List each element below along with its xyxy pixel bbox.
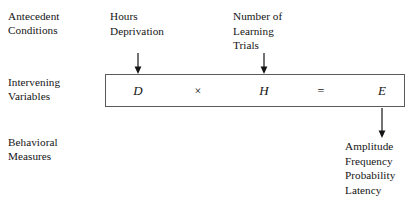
equation-operator-equals: =	[318, 83, 325, 98]
row-label-intervening-variables: Intervening Variables	[8, 75, 60, 103]
row-label-behavioral-measures: Behavioral Measures	[8, 135, 58, 163]
behavioral-measure-item: Latency	[345, 183, 395, 198]
arrow-to-h-icon	[257, 53, 271, 75]
behavioral-measures-list: Amplitude Frequency Probability Latency	[345, 139, 395, 197]
equation-term-d: D	[133, 83, 142, 99]
equation-term-h: H	[259, 83, 268, 99]
input-label-hours-deprivation: Hours Deprivation	[110, 9, 164, 38]
behavioral-measure-item: Probability	[345, 168, 395, 183]
equation-box: D × H = E	[105, 74, 405, 107]
arrow-from-e-icon	[375, 108, 389, 139]
equation-operator-times: ×	[195, 83, 202, 98]
behavioral-measure-item: Amplitude	[345, 139, 395, 154]
input-label-number-of-learning-trials: Number of Learning Trials	[233, 9, 282, 53]
row-label-antecedent-conditions: Antecedent Conditions	[8, 9, 59, 37]
behavioral-measure-item: Frequency	[345, 154, 395, 169]
diagram-canvas: Antecedent Conditions Intervening Variab…	[0, 0, 417, 214]
arrow-to-d-icon	[131, 53, 145, 75]
equation-term-e: E	[378, 83, 386, 99]
